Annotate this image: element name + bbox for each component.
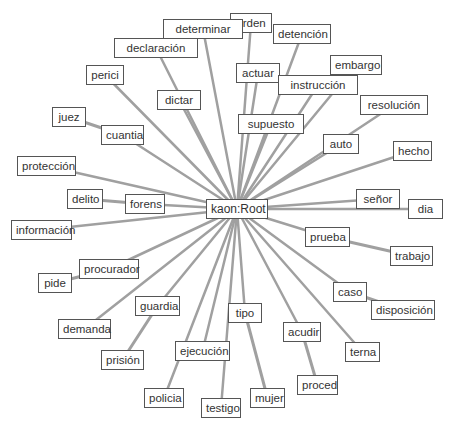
node-hecho[interactable]: hecho (393, 141, 432, 161)
node-policia[interactable]: policia (144, 388, 184, 408)
edge-root-dictar (179, 100, 237, 209)
node-disposicion[interactable]: disposición (371, 300, 435, 320)
root-node[interactable]: kaon:Root (206, 199, 268, 219)
node-mujer[interactable]: mujer (250, 388, 285, 408)
node-juez[interactable]: juez (52, 107, 86, 127)
node-trabajo[interactable]: trabajo (390, 246, 433, 266)
node-declaracion[interactable]: declaración (114, 38, 198, 58)
edge-root-tipo (237, 209, 245, 313)
node-demanda[interactable]: demanda (58, 319, 111, 339)
node-terna[interactable]: terna (345, 342, 380, 362)
edge-root-determinar (203, 29, 237, 209)
node-prueba[interactable]: prueba (305, 227, 350, 247)
node-instruccion[interactable]: instrucción (278, 75, 358, 95)
node-supuesto[interactable]: supuesto (238, 114, 304, 134)
node-caso[interactable]: caso (333, 282, 367, 302)
edge-tipo-mujer (245, 313, 268, 398)
radial-concept-graph: kaon:Root ordendeterminardetencióndeclar… (0, 0, 451, 422)
node-detencion[interactable]: detención (273, 24, 331, 44)
edge-root-instruccion (237, 85, 318, 209)
node-tipo[interactable]: tipo (228, 303, 262, 323)
node-proced[interactable]: proced (297, 375, 338, 395)
node-embargo[interactable]: embargo (330, 55, 382, 75)
node-pide[interactable]: pide (38, 273, 72, 293)
node-acudir[interactable]: acudir (283, 322, 321, 342)
node-determinar[interactable]: determinar (163, 19, 243, 39)
node-cuantia[interactable]: cuantia (101, 125, 144, 145)
node-ejecucion[interactable]: ejecución (175, 341, 230, 361)
node-dictar[interactable]: dictar (157, 90, 201, 110)
node-testigo[interactable]: testigo (201, 398, 241, 418)
node-auto[interactable]: auto (323, 134, 359, 154)
node-procurador[interactable]: procurador (79, 259, 139, 279)
node-delito[interactable]: delito (67, 189, 103, 209)
node-senor[interactable]: señor (356, 189, 400, 209)
node-prision[interactable]: prisión (101, 350, 144, 370)
edge-root-caso (237, 209, 350, 292)
node-perici[interactable]: perici (86, 65, 124, 85)
node-actuar[interactable]: actuar (236, 63, 280, 83)
node-informacion[interactable]: información (11, 220, 72, 240)
node-resolucion[interactable]: resolución (360, 95, 428, 115)
node-guardia[interactable]: guardia (135, 296, 180, 316)
node-forens[interactable]: forens (125, 194, 165, 214)
node-dia[interactable]: dia (408, 199, 443, 219)
node-proteccion[interactable]: protección (17, 156, 76, 176)
